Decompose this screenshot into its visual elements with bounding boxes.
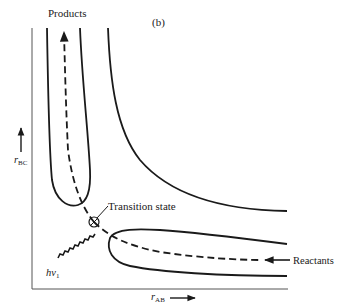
photon-wavy-line-icon	[58, 234, 95, 258]
transition-state-marker	[89, 206, 108, 227]
contour-inner-products-loop	[47, 28, 90, 206]
contour-outer	[108, 28, 287, 211]
reaction-path-products	[64, 32, 94, 222]
transition-state-label: Transition state	[108, 200, 176, 212]
x-axis-label: rAB	[151, 291, 165, 304]
photon-label: hν1	[46, 267, 60, 280]
transition-state-leader-line	[97, 206, 108, 218]
y-axis-label: rBC	[14, 154, 28, 167]
reactants-label: Reactants	[293, 255, 334, 266]
panel-label: (b)	[152, 16, 165, 29]
reaction-path-reactants	[94, 222, 262, 260]
products-label: Products	[48, 7, 87, 19]
potential-energy-surface-diagram: Products (b) Transition state Reactants …	[0, 0, 342, 306]
axes	[32, 28, 288, 289]
contour-lines	[47, 28, 287, 276]
contour-inner-reactants-loop	[109, 229, 287, 276]
